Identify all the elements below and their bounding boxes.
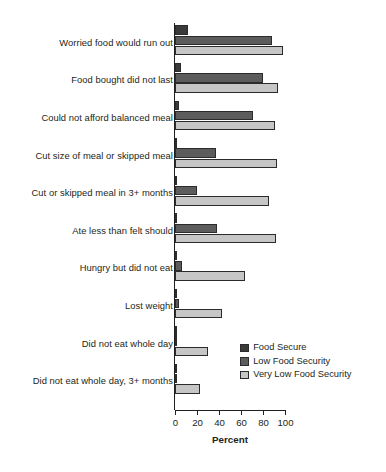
bar-group — [175, 23, 386, 61]
bar — [175, 148, 216, 157]
category-label: Cut or skipped meal in 3+ months — [31, 187, 173, 198]
x-tick-mark — [175, 410, 176, 415]
bar — [175, 159, 277, 168]
chart-category-row: Ate less than felt should — [0, 211, 386, 249]
bar — [175, 213, 177, 222]
x-tick-mark — [285, 410, 286, 415]
legend-item: Low Food Security — [240, 355, 351, 369]
bar — [175, 83, 278, 92]
bar — [175, 261, 182, 270]
bar — [175, 326, 177, 335]
bar — [175, 224, 217, 233]
bar — [175, 309, 222, 318]
x-tick-mark — [219, 410, 220, 415]
bar — [175, 176, 177, 185]
bar — [175, 384, 200, 393]
bar — [175, 25, 188, 34]
bar-group — [175, 249, 386, 287]
x-tick-label: 40 — [214, 417, 225, 428]
x-tick-label: 60 — [236, 417, 247, 428]
x-axis-title: Percent — [175, 434, 285, 445]
category-label: Cut size of meal or skipped meal — [35, 149, 173, 160]
legend-label: Low Food Security — [253, 356, 330, 367]
x-tick-label: 80 — [258, 417, 269, 428]
bar — [175, 271, 245, 280]
category-label: Ate less than felt should — [72, 224, 173, 235]
legend-label: Food Secure — [253, 342, 306, 353]
x-axis-line — [175, 410, 285, 411]
legend-swatch-icon — [240, 371, 249, 380]
bar — [175, 46, 283, 55]
bar-group — [175, 61, 386, 99]
bar — [175, 336, 177, 345]
x-tick-label: 100 — [277, 417, 293, 428]
x-tick-mark — [241, 410, 242, 415]
chart-category-row: Cut or skipped meal in 3+ months — [0, 173, 386, 211]
bar — [175, 234, 276, 243]
bar — [175, 73, 263, 82]
bar — [175, 374, 177, 383]
bar — [175, 347, 208, 356]
bar — [175, 36, 272, 45]
category-label: Worried food would run out — [59, 36, 173, 47]
chart-category-row: Worried food would run out — [0, 23, 386, 61]
category-label: Lost weight — [125, 299, 173, 310]
x-tick-mark — [263, 410, 264, 415]
category-label: Food bought did not last — [71, 74, 173, 85]
bar — [175, 101, 179, 110]
chart-category-row: Lost weight — [0, 286, 386, 324]
legend-item: Food Secure — [240, 341, 351, 355]
bar — [175, 186, 197, 195]
bar-group — [175, 98, 386, 136]
legend-swatch-icon — [240, 357, 249, 366]
legend-label: Very Low Food Security — [253, 369, 351, 380]
chart-category-row: Cut size of meal or skipped meal — [0, 136, 386, 174]
bar-group — [175, 286, 386, 324]
bar-chart: Worried food would run outFood bought di… — [0, 0, 386, 472]
chart-category-row: Hungry but did not eat — [0, 249, 386, 287]
bar — [175, 63, 181, 72]
bar — [175, 299, 179, 308]
bar — [175, 111, 253, 120]
x-tick-mark — [197, 410, 198, 415]
bar — [175, 289, 177, 298]
chart-legend: Food SecureLow Food SecurityVery Low Foo… — [240, 341, 351, 382]
bar — [175, 251, 177, 260]
bar-group — [175, 211, 386, 249]
bar — [175, 121, 275, 130]
bar — [175, 138, 177, 147]
legend-item: Very Low Food Security — [240, 368, 351, 382]
bar-group — [175, 173, 386, 211]
legend-swatch-icon — [240, 344, 249, 353]
category-label: Could not afford balanced meal — [41, 111, 173, 122]
bar — [175, 364, 177, 373]
chart-category-row: Food bought did not last — [0, 61, 386, 99]
category-label: Hungry but did not eat — [80, 262, 173, 273]
chart-category-row: Could not afford balanced meal — [0, 98, 386, 136]
category-label: Did not eat whole day, 3+ months — [33, 375, 173, 386]
category-label: Did not eat whole day — [82, 337, 173, 348]
x-tick-label: 20 — [192, 417, 203, 428]
bar — [175, 196, 269, 205]
bar-group — [175, 136, 386, 174]
x-tick-label: 0 — [173, 417, 178, 428]
